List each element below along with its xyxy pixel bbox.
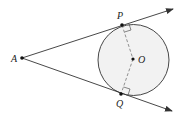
point-a: [20, 56, 24, 60]
point-q: [119, 92, 123, 96]
label-p: P: [116, 10, 123, 21]
label-a: A: [10, 53, 18, 64]
tangent-diagram: A P Q O: [0, 0, 180, 117]
point-p: [120, 23, 124, 27]
point-o: [131, 57, 134, 60]
label-o: O: [138, 54, 145, 65]
label-q: Q: [116, 98, 124, 109]
